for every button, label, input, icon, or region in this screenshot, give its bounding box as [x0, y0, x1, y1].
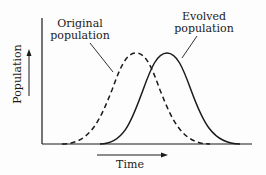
x-axis-arrow-icon	[97, 153, 168, 158]
original-population-curve	[62, 53, 210, 144]
original-population-label-line2: population	[50, 29, 110, 42]
diagram-canvas: Population Time Original population Evol…	[0, 0, 266, 175]
y-axis-arrow-icon	[27, 49, 32, 96]
x-axis-label: Time	[116, 158, 144, 171]
evolved-population-label-line2: population	[174, 22, 234, 35]
diagram-svg: Population Time Original population Evol…	[0, 0, 266, 175]
y-axis-label: Population	[11, 44, 24, 103]
evolved-population-leader-line	[182, 36, 197, 58]
original-population-leader-line	[90, 43, 113, 72]
